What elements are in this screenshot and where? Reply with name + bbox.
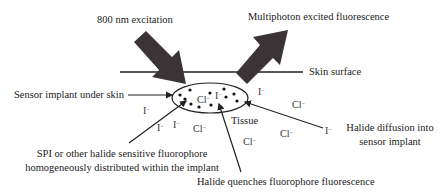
ion-charge: − [146, 106, 149, 112]
excitation-label: 800 nm excitation [97, 14, 173, 26]
ion-iodide: I− [143, 104, 150, 116]
ion-charge: − [252, 137, 255, 143]
diffusion-label-line1: Halide diffusion into [340, 122, 440, 134]
ion-iodide: I− [258, 85, 265, 97]
ion-charge: − [301, 100, 304, 106]
fluorophore-label-line2: homogeneously distributed within the imp… [22, 162, 222, 174]
ion-iodide-inside: I− [215, 89, 222, 101]
quenching-label: Halide quenches fluorophore fluorescence [197, 176, 375, 188]
ion-charge: − [328, 126, 331, 132]
ion-chloride-inside: Cl− [197, 93, 210, 105]
excitation-arrow-icon [134, 31, 186, 84]
ion-iodide: I− [173, 118, 180, 130]
ion-chloride: Cl− [292, 98, 305, 110]
fluorophore-label-line1: SPI or other halide sensitive fluorophor… [22, 148, 222, 160]
ion-charge: − [218, 91, 221, 97]
ion-iodide: I− [325, 124, 332, 136]
ion-charge: − [289, 129, 292, 135]
diffusion-label-line2: sensor implant [340, 136, 440, 148]
ion-charge: − [176, 120, 179, 126]
ion-iodide: I− [157, 121, 164, 133]
fluorophore-label: SPI or other halide sensitive fluorophor… [22, 148, 222, 174]
ion-chloride: Cl− [280, 127, 293, 139]
tissue-label: Tissue [231, 115, 258, 127]
sensor-implant-ellipse [172, 83, 248, 113]
ion-chloride: Cl− [193, 122, 206, 134]
fluorescence-arrow-icon [236, 30, 288, 84]
ion-charge: − [160, 123, 163, 129]
ion-charge: − [206, 95, 209, 101]
diffusion-label: Halide diffusion into sensor implant [340, 122, 440, 148]
ion-charge: − [202, 124, 205, 130]
sensor-implant-label: Sensor implant under skin [14, 89, 124, 101]
skin-surface-label: Skin surface [309, 66, 361, 78]
diagram-canvas: 800 nm excitation Multiphoton excited fl… [0, 0, 443, 194]
ion-charge: − [261, 87, 264, 93]
ion-chloride: Cl− [243, 135, 256, 147]
fluorescence-label: Multiphoton excited fluorescence [248, 11, 389, 23]
